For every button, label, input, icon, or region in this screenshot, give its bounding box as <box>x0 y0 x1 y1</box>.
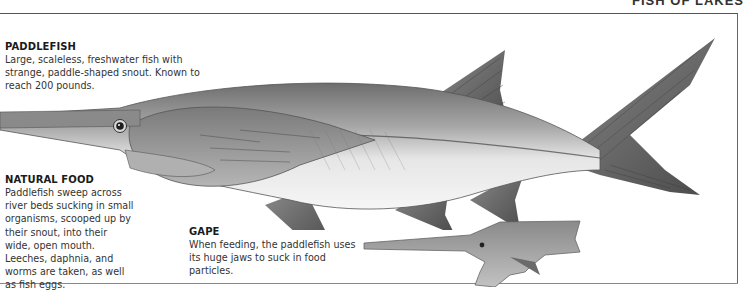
caption-gape-title: GAPE <box>189 225 359 238</box>
tail-fin <box>555 38 715 195</box>
caption-natural-food: NATURAL FOOD Paddlefish sweep across riv… <box>5 173 135 292</box>
caption-natural-food-title: NATURAL FOOD <box>5 173 135 186</box>
caption-natural-food-body: Paddlefish sweep across river beds sucki… <box>5 186 135 292</box>
caption-paddlefish-body: Large, scaleless, freshwater fish with s… <box>5 53 215 93</box>
eye <box>114 120 127 133</box>
caption-paddlefish: PADDLEFISH Large, scaleless, freshwater … <box>5 40 215 93</box>
caption-gape: GAPE When feeding, the paddlefish uses i… <box>189 225 359 278</box>
gape-illustration <box>360 217 585 287</box>
caption-gape-body: When feeding, the paddlefish uses its hu… <box>189 238 359 278</box>
caption-paddlefish-title: PADDLEFISH <box>5 40 215 53</box>
running-head: FISH OF LAKES <box>632 0 744 8</box>
